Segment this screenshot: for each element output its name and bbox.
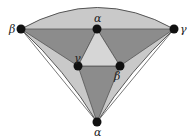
v-beta-left-dot xyxy=(17,25,26,34)
diagram-canvas: βαγγβα xyxy=(0,0,191,138)
v-gamma-right-label: γ xyxy=(180,23,187,36)
v-beta-inner-label: β xyxy=(113,70,120,83)
v-alpha-top-label: α xyxy=(94,12,102,25)
v-alpha-top-dot xyxy=(93,25,102,34)
v-beta-left-label: β xyxy=(8,23,15,36)
v-gamma-inner-label: γ xyxy=(74,52,81,65)
v-alpha-bottom-label: α xyxy=(94,126,102,138)
v-gamma-right-dot xyxy=(170,25,179,34)
